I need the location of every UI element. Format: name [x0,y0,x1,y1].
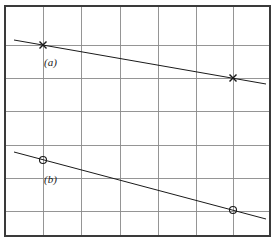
series-label-a: (a) [44,56,57,68]
series-label-b: (b) [44,173,57,185]
figure-root: (a) (b) [0,0,275,242]
plot-background [0,0,275,242]
plot-canvas [0,0,275,242]
